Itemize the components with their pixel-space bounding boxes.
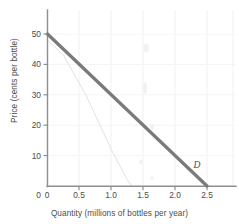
y-tick-label-30: 30 (21, 90, 41, 100)
demand-curve-figure: 50 40 30 20 10 0 0 0.5 1.0 1.5 2.0 2.5 D… (0, 0, 239, 224)
x-axis-title: Quantity (millions of bottles per year) (0, 209, 239, 218)
y-tick-label-50: 50 (21, 29, 41, 39)
demand-curve-label: D (194, 160, 201, 170)
x-tick-label-1-0: 1.0 (99, 190, 123, 200)
x-tick-label-2-5: 2.5 (195, 190, 219, 200)
x-tick-label-0-5: 0.5 (67, 190, 91, 200)
x-tick-label-1-5: 1.5 (131, 190, 155, 200)
y-axis-title: Price (cents per bottle) (10, 16, 19, 146)
y-tick-label-40: 40 (21, 59, 41, 69)
y-tick-label-10: 10 (21, 151, 41, 161)
x-tick-label-0: 0 (35, 190, 59, 200)
y-tick-label-20: 20 (21, 120, 41, 130)
x-tick-label-2-0: 2.0 (163, 190, 187, 200)
